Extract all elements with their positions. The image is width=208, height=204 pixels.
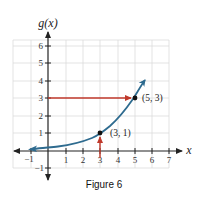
figure-caption: Figure 6 [10,178,197,190]
function-curve [34,80,145,149]
point-3-1 [98,131,103,136]
function-graph: −1 1 2 3 4 5 6 7 6 5 4 3 2 1 −1 g(x) x (… [0,0,208,204]
x-tick-label: −1 [24,154,34,164]
x-axis-label: x [185,143,192,157]
point-label-3-1: (3, 1) [110,128,131,139]
x-tick-label: 4 [116,155,121,165]
y-axis-label: g(x) [38,16,57,30]
y-tick-label: 6 [39,41,44,51]
x-tick-label: 6 [150,155,155,165]
x-tick-label: 2 [81,155,86,165]
y-tick-label: 5 [39,58,44,68]
x-tick-label: 7 [167,155,172,165]
x-tick-label: 1 [64,155,69,165]
y-tick-label: 3 [39,93,44,103]
point-label-5-3: (5, 3) [142,93,163,104]
y-tick-label: −1 [34,163,44,173]
y-tick-label: 1 [39,128,44,138]
x-tick-label: 5 [133,155,138,165]
point-5-3 [133,96,138,101]
y-tick-label: 4 [39,76,44,86]
y-tick-label: 2 [39,111,44,121]
